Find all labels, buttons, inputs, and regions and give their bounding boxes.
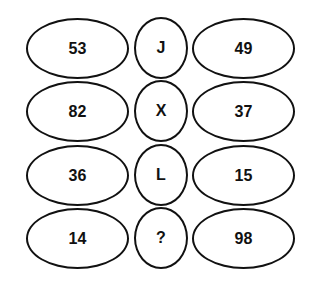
left-number: 53 bbox=[69, 40, 87, 58]
right-number: 98 bbox=[235, 230, 253, 248]
right-number: 49 bbox=[235, 40, 253, 58]
middle-letter: X bbox=[156, 102, 167, 120]
left-number: 36 bbox=[69, 167, 87, 185]
left-number-ellipse: 82 bbox=[26, 81, 129, 142]
middle-letter: L bbox=[156, 166, 166, 184]
left-number: 14 bbox=[69, 230, 87, 248]
middle-unknown-ellipse: ? bbox=[134, 207, 188, 269]
middle-letter-ellipse: X bbox=[134, 80, 188, 142]
right-number: 37 bbox=[235, 103, 253, 121]
middle-letter-ellipse: J bbox=[134, 17, 188, 79]
right-number-ellipse: 15 bbox=[192, 145, 295, 206]
right-number: 15 bbox=[235, 167, 253, 185]
middle-letter-ellipse: L bbox=[134, 144, 188, 206]
left-number-ellipse: 36 bbox=[26, 145, 129, 206]
left-number-ellipse: 53 bbox=[26, 18, 129, 79]
question-mark: ? bbox=[156, 229, 166, 247]
left-number: 82 bbox=[69, 103, 87, 121]
middle-letter: J bbox=[157, 39, 166, 57]
right-number-ellipse: 98 bbox=[192, 208, 295, 269]
right-number-ellipse: 37 bbox=[192, 81, 295, 142]
right-number-ellipse: 49 bbox=[192, 18, 295, 79]
left-number-ellipse: 14 bbox=[26, 208, 129, 269]
